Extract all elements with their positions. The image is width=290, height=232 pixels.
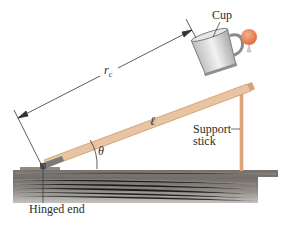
- support-stick: [240, 94, 243, 171]
- dimension-tick-left: [14, 110, 44, 170]
- incline-board-diagram: [0, 0, 290, 232]
- cup-label: Cup: [212, 9, 232, 21]
- rc-label: rc: [104, 64, 112, 79]
- support-stick-label: Support stick: [193, 123, 231, 147]
- rc-subscript: c: [109, 70, 113, 79]
- board-length-label: ℓ: [150, 115, 155, 127]
- arrowhead-left: [18, 111, 28, 118]
- ball: [241, 29, 257, 52]
- cup: [190, 23, 249, 77]
- hinged-end-label: Hinged end: [29, 203, 85, 215]
- dimension-tick-right: [186, 19, 196, 38]
- table: [13, 167, 278, 203]
- dimension-line-rc: [14, 19, 196, 170]
- angle-label: θ: [98, 145, 104, 157]
- support-label-line2: stick: [193, 135, 231, 147]
- arrowhead-right: [182, 30, 192, 37]
